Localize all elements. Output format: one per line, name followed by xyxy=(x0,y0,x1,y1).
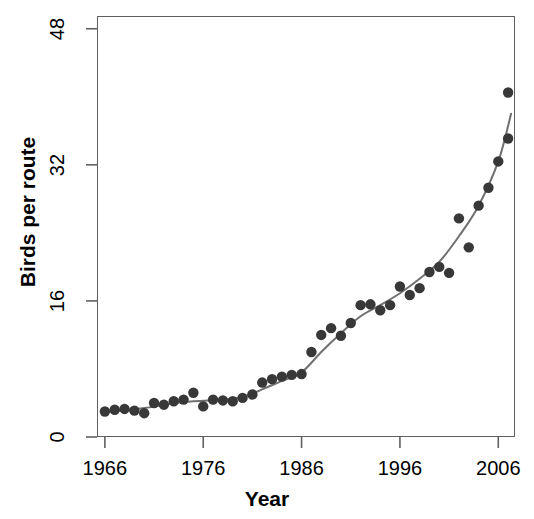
x-tick-label-1976: 1976 xyxy=(163,457,243,480)
x-tick-label-1966: 1966 xyxy=(65,457,145,480)
y-tick-label-16: 16 xyxy=(44,279,70,323)
y-axis-title: Birds per route xyxy=(16,132,40,292)
y-tick-label-48: 48 xyxy=(44,7,70,51)
x-tick-label-1986: 1986 xyxy=(262,457,342,480)
plot-panel xyxy=(97,16,515,437)
chart-figure: 0163248 19661976198619962006 Birds per r… xyxy=(0,0,534,519)
y-tick-label-0: 0 xyxy=(44,415,70,459)
x-axis-title: Year xyxy=(0,487,534,511)
x-tick-label-1996: 1996 xyxy=(360,457,440,480)
y-tick-label-32: 32 xyxy=(44,143,70,187)
x-tick-label-2006: 2006 xyxy=(458,457,534,480)
